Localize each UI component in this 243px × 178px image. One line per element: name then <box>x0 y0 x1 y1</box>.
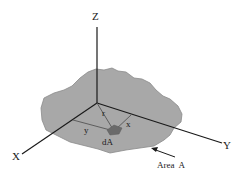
element-label: dA <box>102 137 114 147</box>
arrowhead-icon <box>151 147 158 152</box>
x-distance-label: x <box>126 119 131 129</box>
x-axis-label: X <box>12 150 20 162</box>
area-moment-diagram: Z X Y r y x dA Area A <box>0 0 243 178</box>
y-distance-label: y <box>84 125 89 135</box>
r-label: r <box>102 108 105 118</box>
area-label: Area A <box>157 160 185 170</box>
z-axis-label: Z <box>92 10 99 22</box>
y-axis-label: Y <box>223 139 231 151</box>
